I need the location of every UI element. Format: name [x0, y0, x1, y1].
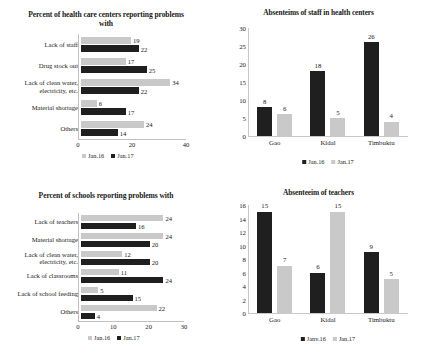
legend-label: Jan.17 — [117, 152, 133, 159]
legend-item[interactable]: Jan.17 — [117, 334, 139, 341]
y-tick-label: 16 — [239, 202, 246, 209]
y-tick-label: 2 — [243, 296, 246, 303]
bar-group: 617 — [81, 100, 186, 116]
bar-value-label: 19 — [133, 37, 140, 44]
x-axis-line — [78, 139, 186, 140]
bar-group: 515 — [81, 287, 184, 301]
bar-category-label: Lack of staff — [0, 41, 81, 48]
legend-item[interactable]: Jan.17 — [332, 158, 354, 165]
y-tick-label: 10 — [239, 97, 246, 104]
chart-title-health-centers-problems: Percent of health care centers reporting… — [0, 0, 212, 28]
bar-rows: Lack of staff1922Drug stock out1725Lack … — [0, 34, 186, 139]
bar-value-label: 8 — [263, 99, 266, 106]
bar-value-label: 14 — [120, 129, 127, 136]
bar-category-label: Lack of teachers — [0, 218, 81, 225]
legend-item[interactable]: Jan.16 — [82, 152, 104, 159]
legend-item[interactable]: Jan.17 — [111, 152, 133, 159]
bar-groups: 86Gao185Kidal264Timbuktu — [248, 28, 408, 136]
bar-column: 5 — [330, 110, 345, 136]
y-tick-label: 30 — [239, 25, 246, 32]
bar-janv-16 — [257, 212, 272, 313]
bar-category-label: Lack of clean water, electricity, etc. — [0, 79, 81, 94]
bar-value-label: 6 — [99, 100, 102, 107]
bar-value-label: 5 — [336, 110, 339, 117]
bar-row: Drug stock out1725 — [0, 55, 186, 76]
chart-plot-absenteeism-staff: 05101520253086Gao185Kidal264TimbuktuJan.… — [248, 28, 408, 178]
y-tick-label: 6 — [243, 269, 246, 276]
bar-row: Lack of teachers2416 — [0, 213, 184, 231]
bar-jan-17: 20 — [81, 241, 150, 247]
bar-value-label: 20 — [152, 240, 159, 247]
bar-value-label: 24 — [165, 276, 172, 283]
chart-panel-absenteeism-teachers: Absenteeim of teachers 0246810121416157G… — [212, 181, 425, 363]
bar-group: 1124 — [81, 269, 184, 283]
bar-jan-16 — [310, 71, 325, 136]
bar-value-label: 5 — [390, 271, 393, 278]
legend-item[interactable]: Janv.16 — [301, 335, 326, 342]
x-category-label: Kidal — [301, 139, 354, 146]
bar-group: 1922 — [81, 37, 186, 53]
y-tick-label: 0 — [243, 310, 246, 317]
bar-group: 1220 — [81, 251, 184, 265]
bar-value-label: 20 — [152, 258, 159, 265]
chart-panel-health-centers-problems: Percent of health care centers reporting… — [0, 0, 212, 181]
y-tick-label: 25 — [239, 43, 246, 50]
bar-value-label: 22 — [141, 87, 148, 94]
bar-jan-16 — [364, 42, 379, 136]
legend-label: Jan.16 — [94, 334, 110, 341]
bar-category-label: Lack of classrooms — [0, 272, 81, 279]
bar-jan-16: 24 — [81, 215, 163, 221]
bar-category-label: Drug stock out — [0, 62, 81, 69]
bar-category-label: Material shortage — [0, 236, 81, 243]
legend-label: Jan.16 — [88, 152, 104, 159]
bar-jan-17: 16 — [81, 223, 136, 229]
legend-swatch-icon — [301, 337, 305, 341]
bar-value-label: 16 — [138, 222, 145, 229]
bar-jan-16: 5 — [81, 287, 98, 293]
y-tick-label: 8 — [243, 256, 246, 263]
chart-legend: Jan.16Jan.17 — [302, 158, 354, 165]
bar-column: 8 — [257, 99, 272, 136]
legend-label: Jan.17 — [339, 335, 355, 342]
legend-swatch-icon — [117, 336, 121, 340]
chart-plot-schools-problems: Lack of teachers2416Material shortage242… — [0, 213, 212, 363]
bar-column: 26 — [364, 34, 379, 136]
y-axis-line — [78, 34, 79, 139]
chart-title-schools-problems: Percent of schools reporting problems wi… — [0, 181, 212, 201]
chart-legend: Janv.16Jan.17 — [301, 335, 355, 342]
x-tick-label: 30 — [181, 323, 188, 330]
bar-value-label: 6 — [316, 264, 319, 271]
bar-rows: Lack of teachers2416Material shortage242… — [0, 213, 184, 321]
bar-value-label: 18 — [315, 63, 322, 70]
bar-row: Others224 — [0, 303, 184, 321]
legend-swatch-icon — [82, 154, 86, 158]
legend-swatch-icon — [111, 154, 115, 158]
bar-value-label: 4 — [390, 113, 393, 120]
bar-column: 6 — [277, 106, 292, 136]
chart-panel-absenteeism-staff: Absenteims of staff in health centers 05… — [212, 0, 425, 181]
bar-group: 86Gao — [248, 28, 301, 136]
chart-legend: Jan.16Jan.17 — [82, 152, 134, 159]
bar-row: Lack of clean water, electricity, etc.12… — [0, 249, 184, 267]
bar-category-label: Others — [0, 125, 81, 132]
x-category-label: Timbuktu — [355, 139, 408, 146]
bar-group: 2416 — [81, 215, 184, 229]
bar-column: 7 — [277, 257, 292, 313]
chart-legend: Jan.16Jan.17 — [88, 334, 140, 341]
bar-value-label: 15 — [335, 203, 342, 210]
legend-item[interactable]: Jan.16 — [302, 158, 324, 165]
bar-column: 4 — [384, 113, 399, 136]
y-tick-label: 5 — [243, 115, 246, 122]
bar-group: 95Timbuktu — [355, 205, 408, 313]
chart-plot-absenteeism-teachers: 0246810121416157Gao615Kidal95TimbuktuJan… — [248, 205, 408, 360]
bar-group: 3422 — [81, 79, 186, 95]
bar-jan-16: 6 — [81, 100, 97, 107]
chart-panel-schools-problems: Percent of schools reporting problems wi… — [0, 181, 212, 363]
legend-item[interactable]: Jan.16 — [88, 334, 110, 341]
legend-item[interactable]: Jan.17 — [333, 335, 355, 342]
bar-value-label: 26 — [368, 34, 375, 41]
legend-label: Janv.16 — [307, 335, 326, 342]
x-category-label: Kidal — [301, 316, 354, 323]
bar-group: 615Kidal — [301, 205, 354, 313]
legend-label: Jan.17 — [123, 334, 139, 341]
